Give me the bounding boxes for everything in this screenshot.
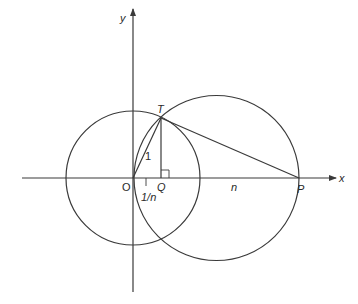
label-oq-length: 1/n [141, 191, 156, 203]
segment-ot [133, 118, 161, 178]
label-ot-length: 1 [145, 150, 151, 162]
right-angle-mark [161, 170, 169, 178]
x-axis-label: x [338, 172, 345, 184]
y-axis-label: y [119, 12, 127, 24]
point-label-p: P [297, 183, 305, 195]
diagram-canvas: y x O Q T P 1 1/n n [0, 0, 358, 304]
point-label-o: O [122, 181, 131, 193]
geometry-diagram: y x O Q T P 1 1/n n [0, 0, 358, 304]
point-label-t: T [157, 103, 165, 115]
label-qp-length: n [231, 181, 237, 193]
point-label-q: Q [157, 181, 166, 193]
segment-tp [161, 118, 299, 178]
